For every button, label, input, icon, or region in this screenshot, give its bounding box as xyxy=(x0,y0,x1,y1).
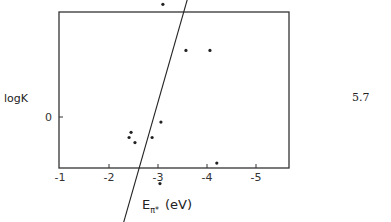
data-point xyxy=(208,49,211,52)
x-tick-label: -4 xyxy=(202,171,213,184)
x-tick-label: -5 xyxy=(251,171,262,184)
y-axis-label: logK xyxy=(4,92,29,105)
plot-frame xyxy=(59,12,289,168)
data-point xyxy=(151,136,154,139)
data-point xyxy=(161,3,164,6)
x-axis-label: Eπ*(eV) xyxy=(142,197,192,215)
x-tick-label: -1 xyxy=(55,171,66,184)
data-point xyxy=(129,131,132,134)
y-tick-label: 0 xyxy=(45,111,52,124)
data-point xyxy=(159,121,162,124)
fit-line xyxy=(89,0,278,222)
equation-number: 5.7 xyxy=(352,91,370,104)
x-tick-label: -3 xyxy=(153,171,164,184)
data-point xyxy=(215,161,218,164)
data-point xyxy=(133,141,136,144)
data-point xyxy=(184,49,187,52)
data-point xyxy=(127,136,130,139)
scatter-chart: -1-2-3-4-5-50510logKEπ*(eV) xyxy=(0,0,391,222)
x-tick-label: -2 xyxy=(104,171,115,184)
